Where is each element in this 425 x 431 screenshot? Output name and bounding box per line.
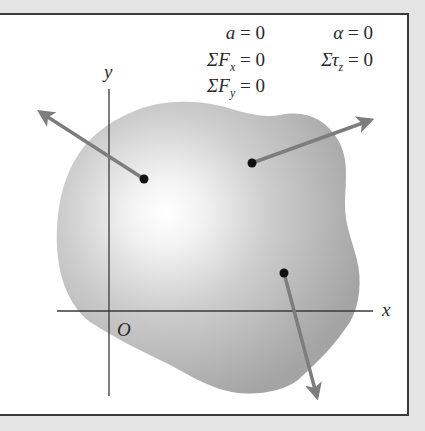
eq-subscript: y bbox=[230, 86, 235, 100]
eq-lhs: ΣF bbox=[207, 49, 230, 70]
eq-lhs: a bbox=[226, 22, 236, 43]
eq-rhs: = 0 bbox=[348, 49, 373, 70]
equation-angular-acceleration: α = 0 bbox=[333, 23, 373, 43]
application-point-3 bbox=[280, 269, 289, 278]
rigid-body-shape bbox=[57, 102, 360, 394]
equation-sum-fx: ΣFx = 0 bbox=[207, 50, 265, 77]
eq-rhs: = 0 bbox=[240, 49, 265, 70]
equation-linear-acceleration: a = 0 bbox=[226, 23, 265, 43]
x-axis-label: x bbox=[382, 300, 390, 320]
equation-sum-torque: Στz = 0 bbox=[321, 50, 373, 77]
eq-rhs: = 0 bbox=[240, 75, 265, 96]
eq-subscript: x bbox=[230, 60, 235, 74]
eq-rhs: = 0 bbox=[348, 22, 373, 43]
eq-lhs: α bbox=[333, 22, 343, 43]
y-axis-label: y bbox=[104, 62, 112, 82]
eq-rhs: = 0 bbox=[240, 22, 265, 43]
application-point-1 bbox=[140, 175, 149, 184]
equation-sum-fy: ΣFy = 0 bbox=[207, 76, 265, 103]
eq-lhs: Στ bbox=[321, 49, 338, 70]
origin-label: O bbox=[117, 320, 131, 340]
eq-subscript: z bbox=[339, 60, 344, 74]
application-point-2 bbox=[248, 159, 257, 168]
eq-lhs: ΣF bbox=[207, 75, 230, 96]
